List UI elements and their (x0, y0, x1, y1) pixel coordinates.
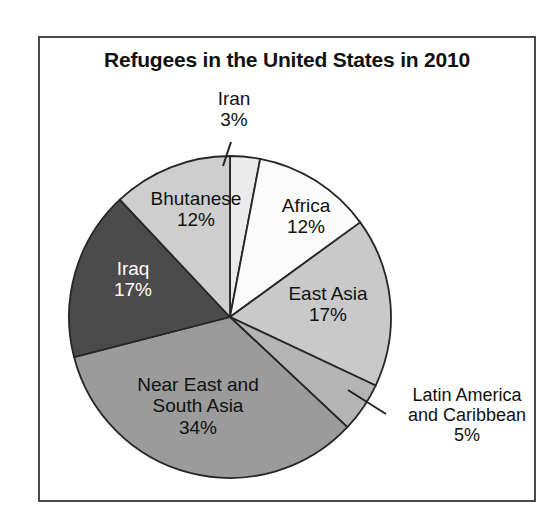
slice-label-east-asia: East Asia 17% (268, 283, 388, 326)
slice-label-iraq-value: 17% (88, 279, 178, 300)
slice-label-iran-value: 3% (188, 109, 280, 130)
slice-label-near-east-line1: Near East and (108, 374, 288, 395)
slice-label-africa-name: Africa (258, 195, 354, 216)
slice-label-latin-america-line2: and Caribbean (382, 405, 552, 425)
slice-label-bhutanese: Bhutanese 12% (126, 188, 266, 231)
slice-label-bhutanese-name: Bhutanese (126, 188, 266, 209)
slice-label-iran: Iran 3% (188, 88, 280, 131)
slice-label-east-asia-value: 17% (268, 304, 388, 325)
slice-label-near-east-and-south-asia: Near East and South Asia 34% (108, 374, 288, 438)
slice-label-east-asia-name: East Asia (268, 283, 388, 304)
slice-label-latin-america-line1: Latin America (382, 385, 552, 405)
slice-label-africa: Africa 12% (258, 195, 354, 238)
slice-label-latin-america: Latin America and Caribbean 5% (382, 385, 552, 445)
slice-label-africa-value: 12% (258, 216, 354, 237)
figure-container: Refugees in the United States in 2010 Ir… (0, 0, 558, 531)
slice-label-iraq: Iraq 17% (88, 258, 178, 301)
slice-label-iran-name: Iran (188, 88, 280, 109)
slice-label-iraq-name: Iraq (88, 258, 178, 279)
slice-label-near-east-value: 34% (108, 417, 288, 438)
slice-label-latin-america-value: 5% (382, 425, 552, 445)
slice-label-bhutanese-value: 12% (126, 209, 266, 230)
slice-label-near-east-line2: South Asia (108, 395, 288, 416)
